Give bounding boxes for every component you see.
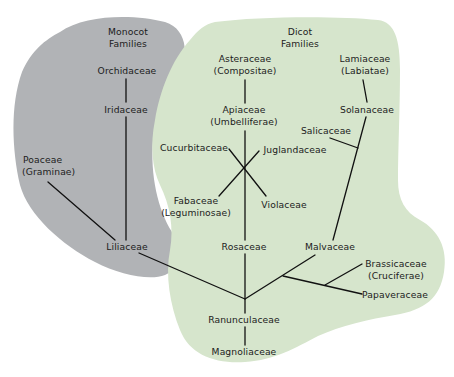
node-salicaceae: Salicaceae [301, 125, 351, 136]
node-fabaceae-alt: (Leguminosae) [161, 207, 231, 218]
plant-family-phylogeny-diagram: Monocot Families Dicot Families Orchidac… [0, 0, 454, 377]
node-poaceae: Poaceae [23, 154, 62, 165]
node-lamiaceae-alt: (Labiatae) [341, 65, 389, 76]
node-fabaceae: Fabaceae [174, 195, 219, 206]
node-brassicaceae-alt: (Cruciferae) [368, 270, 424, 281]
node-asteraceae: Asteraceae [219, 53, 272, 64]
node-violaceae: Violaceae [261, 199, 307, 210]
dicot-region [152, 17, 445, 362]
node-lamiaceae: Lamiaceae [340, 53, 391, 64]
monocot-title-line1: Monocot [108, 26, 148, 37]
node-ranunculaceae: Ranunculaceae [208, 314, 280, 325]
node-apiaceae: Apiaceae [222, 104, 265, 115]
node-brassicaceae: Brassicaceae [365, 258, 427, 269]
dicot-title-line1: Dicot [288, 26, 313, 37]
node-solanaceae: Solanaceae [340, 104, 394, 115]
node-magnoliaceae: Magnoliaceae [212, 346, 277, 357]
node-orchidaceae: Orchidaceae [98, 65, 157, 76]
node-poaceae-alt: (Graminae) [22, 166, 75, 177]
node-iridaceae: Iridaceae [104, 104, 148, 115]
node-apiaceae-alt: (Umbelliferae) [210, 116, 277, 127]
node-cucurbitaceae: Cucurbitaceae [160, 142, 228, 153]
node-asteraceae-alt: (Compositae) [213, 65, 276, 76]
dicot-title-line2: Families [281, 38, 319, 49]
node-papaveraceae: Papaveraceae [362, 289, 428, 300]
node-rosaceae: Rosaceae [222, 241, 267, 252]
node-liliaceae: Liliaceae [106, 241, 148, 252]
node-malvaceae: Malvaceae [305, 241, 355, 252]
node-juglandaceae: Juglandaceae [262, 144, 326, 155]
monocot-title-line2: Families [109, 38, 147, 49]
